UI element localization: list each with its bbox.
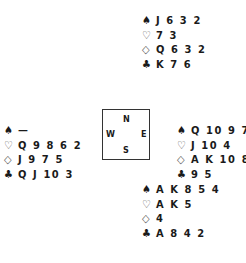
east-hearts: ♡J 10 4 (177, 139, 246, 154)
east-hand: ♠Q 10 9 7 ♡J 10 4 ◇A K 10 8 ♣9 5 (177, 124, 246, 182)
diamond-icon: ◇ (4, 153, 18, 168)
north-clubs: ♣K 7 6 (142, 58, 207, 73)
north-hand: ♠J 6 3 2 ♡7 3 ◇Q 6 3 2 ♣K 7 6 (142, 14, 207, 72)
diamond-icon: ◇ (142, 43, 156, 58)
north-hearts: ♡7 3 (142, 29, 207, 44)
west-hand: ♠— ♡Q 9 8 6 2 ◇J 9 7 5 ♣Q J 10 3 (4, 124, 82, 182)
compass-south: S (123, 145, 129, 155)
spade-icon: ♠ (142, 183, 156, 198)
south-clubs: ♣A 8 4 2 (142, 227, 220, 242)
diamond-icon: ◇ (177, 153, 191, 168)
north-diamonds: ◇Q 6 3 2 (142, 43, 207, 58)
diamond-icon: ◇ (142, 212, 156, 227)
spade-icon: ♠ (142, 14, 156, 29)
club-icon: ♣ (142, 58, 156, 73)
east-spades: ♠Q 10 9 7 (177, 124, 246, 139)
club-icon: ♣ (142, 227, 156, 242)
club-icon: ♣ (4, 168, 18, 183)
spade-icon: ♠ (4, 124, 18, 139)
west-diamonds: ◇J 9 7 5 (4, 153, 82, 168)
club-icon: ♣ (177, 168, 191, 183)
compass-north: N (123, 114, 130, 124)
compass-west: W (106, 129, 115, 139)
east-diamonds: ◇A K 10 8 (177, 153, 246, 168)
heart-icon: ♡ (142, 29, 156, 44)
heart-icon: ♡ (4, 139, 18, 154)
compass-box: N W E S (102, 109, 150, 160)
west-spades: ♠— (4, 124, 82, 139)
west-hearts: ♡Q 9 8 6 2 (4, 139, 82, 154)
heart-icon: ♡ (177, 139, 191, 154)
south-hand: ♠A K 8 5 4 ♡A K 5 ◇4 ♣A 8 4 2 (142, 183, 220, 241)
south-hearts: ♡A K 5 (142, 198, 220, 213)
compass-east: E (141, 129, 147, 139)
south-spades: ♠A K 8 5 4 (142, 183, 220, 198)
west-clubs: ♣Q J 10 3 (4, 168, 82, 183)
heart-icon: ♡ (142, 198, 156, 213)
spade-icon: ♠ (177, 124, 191, 139)
south-diamonds: ◇4 (142, 212, 220, 227)
east-clubs: ♣9 5 (177, 168, 246, 183)
north-spades: ♠J 6 3 2 (142, 14, 207, 29)
